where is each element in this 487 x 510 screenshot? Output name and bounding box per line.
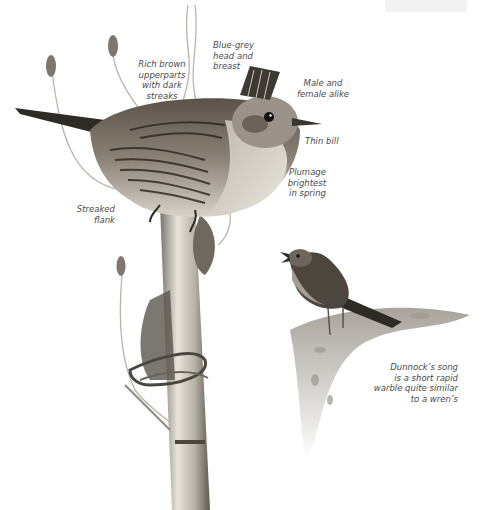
annotation-song: Dunnock’s song is a short rapid warble q… — [350, 362, 458, 404]
bird-illustration — [0, 0, 487, 510]
annotation-upperparts: Rich brown upperparts with dark streaks — [127, 59, 197, 101]
illustration-page: Rich brown upperparts with dark streaks … — [0, 0, 487, 510]
annotation-plumage: Plumage brightest in spring — [266, 167, 326, 199]
perch-stem — [125, 205, 215, 510]
annotation-head: Blue-grey head and breast — [213, 40, 273, 72]
annotation-bill: Thin bill — [305, 136, 365, 147]
annotation-flank: Streaked flank — [60, 204, 115, 225]
annotation-sexes: Male and female alike — [288, 78, 358, 99]
